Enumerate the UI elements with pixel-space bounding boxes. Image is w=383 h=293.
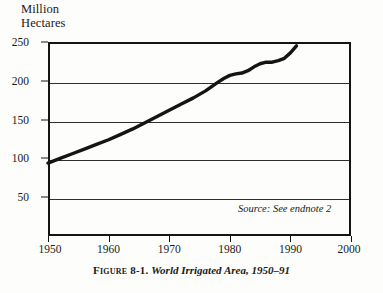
y-tick-label-250: 250 — [0, 36, 29, 48]
y-tick-mark-250 — [41, 42, 48, 43]
figure-container: Million Hectares 250 200 150 100 50 1950… — [0, 0, 383, 293]
y-tick-label-200: 200 — [0, 75, 29, 87]
x-tick-mark-2000 — [351, 236, 352, 242]
y-tick-mark-50 — [41, 197, 48, 198]
x-tick-label-1990: 1990 — [279, 243, 302, 255]
y-tick-label-150: 150 — [0, 114, 29, 126]
figure-caption: Figure 8-1. World Irrigated Area, 1950–9… — [0, 264, 383, 276]
x-tick-label-1980: 1980 — [218, 243, 241, 255]
y-axis-title: Million Hectares — [21, 3, 66, 30]
y-tick-label-50: 50 — [0, 191, 29, 203]
x-tick-label-1950: 1950 — [39, 243, 62, 255]
x-tick-mark-1980 — [230, 236, 231, 242]
figure-title: World Irrigated Area, 1950–91 — [151, 264, 290, 276]
x-tick-mark-1970 — [169, 236, 170, 242]
source-note: Source: See endnote 2 — [238, 203, 331, 214]
x-tick-label-1970: 1970 — [158, 243, 181, 255]
y-tick-mark-100 — [41, 158, 48, 159]
x-tick-label-2000: 2000 — [338, 243, 361, 255]
x-tick-mark-1950 — [48, 236, 49, 242]
x-tick-label-1960: 1960 — [97, 243, 120, 255]
x-tick-mark-1960 — [109, 236, 110, 242]
x-tick-mark-1990 — [290, 236, 291, 242]
y-tick-label-100: 100 — [0, 152, 29, 164]
figure-number: Figure 8-1. — [93, 264, 148, 276]
y-tick-mark-150 — [41, 119, 48, 120]
data-series-line — [48, 46, 296, 163]
y-tick-mark-200 — [41, 80, 48, 81]
